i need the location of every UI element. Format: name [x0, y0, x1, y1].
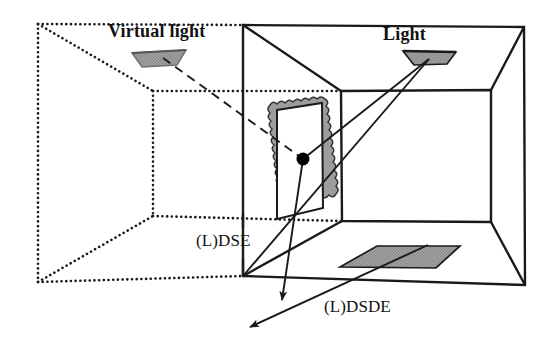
virtual-back-wall-bottom: [153, 216, 342, 221]
virtual-room-outer-bottom: [38, 276, 243, 282]
light-fixture-icon: [403, 51, 456, 65]
real-room-edge-bottom-right: [491, 222, 525, 285]
figure-canvas: Virtual light Light (L)DSE (L)DSDE: [0, 0, 551, 352]
real-room-edge-top-left: [243, 25, 341, 91]
label-virtual-light: Virtual light: [108, 22, 205, 40]
label-light: Light: [383, 25, 426, 43]
virtual-edge-bottom-left: [38, 216, 153, 282]
label-path-ldse: (L)DSE: [196, 232, 250, 249]
diagram-svg: [0, 0, 551, 352]
label-path-ldsde: (L)DSDE: [324, 298, 391, 315]
virtual-light-fixture-icon: [132, 50, 186, 67]
real-room-edge-top-right: [491, 27, 524, 90]
mirror-hit-point-dot: [297, 153, 310, 166]
